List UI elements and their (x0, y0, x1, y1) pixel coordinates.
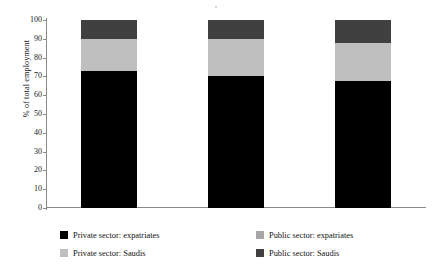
legend-swatch-icon (256, 231, 264, 239)
legend-label: Private sector: expatriates (73, 231, 160, 240)
bar-segment[interactable] (81, 20, 137, 39)
y-axis-tick-label: 70 (16, 72, 42, 80)
legend-label: Private sector: Saudis (73, 249, 146, 258)
bar-segment[interactable] (81, 71, 137, 208)
plot-area: 1009080706050403020100 201720182019 (46, 20, 426, 208)
legend-item[interactable]: Private sector: expatriates (60, 228, 160, 242)
bar-segment[interactable] (335, 20, 391, 43)
bar-segment[interactable] (208, 39, 264, 77)
legend-item[interactable]: Public sector: Saudis (256, 246, 339, 260)
bar-segment[interactable] (335, 43, 391, 82)
bars-layer: 201720182019 (46, 20, 426, 208)
legend-label: Public sector: Saudis (269, 249, 339, 258)
y-axis-tick-label: 0 (16, 204, 42, 212)
y-axis-tick-mark (43, 208, 46, 209)
y-axis-tick-label: 80 (16, 54, 42, 62)
bar-segment[interactable] (208, 76, 264, 208)
legend-item[interactable]: Private sector: Saudis (60, 246, 146, 260)
y-axis-tick-label: 90 (16, 35, 42, 43)
bar-segment[interactable] (208, 20, 264, 39)
legend-swatch-icon (256, 249, 264, 257)
bar-segment[interactable] (81, 39, 137, 71)
y-axis-tick-label: 60 (16, 91, 42, 99)
chart-legend: Private sector: expatriatesPrivate secto… (60, 228, 432, 264)
legend-swatch-icon (60, 249, 68, 257)
stacked-bar-chart: % of total employment 100908070605040302… (0, 0, 438, 267)
bar-stack[interactable] (335, 20, 391, 208)
y-axis-tick-label: 40 (16, 129, 42, 137)
y-axis-tick-label: 10 (16, 185, 42, 193)
legend-label: Public sector: expatriates (269, 231, 353, 240)
bar-segment[interactable] (335, 81, 391, 208)
y-axis-tick-label: 50 (16, 110, 42, 118)
y-axis-tick-label: 100 (16, 16, 42, 24)
y-axis-tick-label: 20 (16, 166, 42, 174)
y-axis-tick-label: 30 (16, 148, 42, 156)
legend-swatch-icon (60, 231, 68, 239)
bar-stack[interactable] (81, 20, 137, 208)
legend-item[interactable]: Public sector: expatriates (256, 228, 353, 242)
speck-artifact (215, 6, 217, 8)
bar-stack[interactable] (208, 20, 264, 208)
